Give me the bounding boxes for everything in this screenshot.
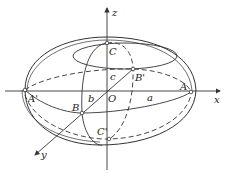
ellipsoid-diagram: x y z O A A' B B' C C' a b c	[0, 0, 229, 173]
vertex-label-B-prime: B'	[134, 72, 145, 83]
top-cap-ellipse	[73, 43, 177, 69]
y-axis	[35, 69, 133, 155]
vertex-label-C-prime: C'	[97, 126, 107, 137]
equator-back	[25, 69, 191, 92]
semi-axis-label-b: b	[88, 93, 94, 104]
y-axis-label: y	[40, 149, 47, 160]
vertex-label-B: B	[71, 102, 79, 113]
vertex-label-C: C	[109, 46, 117, 57]
vertex-label-A-prime: A'	[27, 93, 38, 104]
z-axis-label: z	[111, 7, 118, 18]
x-axis-label: x	[214, 94, 220, 105]
vertex-label-A: A	[179, 81, 187, 92]
semi-axis-label-a: a	[147, 92, 153, 103]
semi-axis-label-c: c	[110, 71, 116, 82]
origin-label: O	[108, 93, 116, 104]
